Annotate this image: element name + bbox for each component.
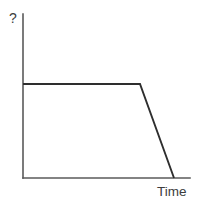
x-axis-label: Time [157,185,187,199]
data-series-line [23,84,174,178]
chart-canvas [0,0,197,204]
chart-figure: ? Time [0,0,197,204]
y-axis-label: ? [9,11,17,25]
